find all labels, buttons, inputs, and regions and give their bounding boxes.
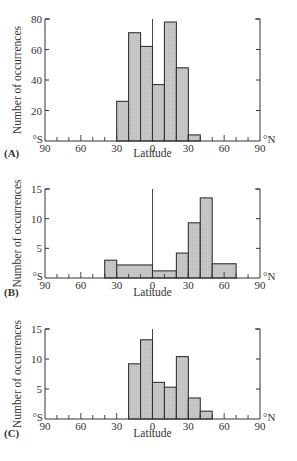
x-tick-label: 30 [183,420,195,432]
x-tick-label: 60 [75,420,87,432]
x-tick-label: 60 [75,279,87,291]
x-tick-label: 90 [40,279,52,291]
y-tick-label: 5 [37,242,43,254]
x-axis-title: Latitude [133,286,171,298]
histogram-bars [129,340,213,419]
x-tick-label: 30 [111,420,123,432]
histogram-bar [164,22,176,141]
histogram-bar [117,101,129,141]
histogram-bar [153,85,165,141]
y-tick-label: 15 [31,323,43,335]
histogram-bar [141,340,153,419]
histogram-bar [200,198,212,278]
histogram-bar [129,364,141,419]
x-tick-label: 30 [111,279,123,291]
histogram-bar [164,387,176,419]
y-tick-label: 10 [31,353,43,365]
x-axis-title: Latitude [133,427,171,439]
histogram-bar [153,382,165,419]
histogram-bar [176,68,188,141]
y-axis-title: Number of occurrences [11,179,23,287]
histogram-bar [200,411,212,419]
x-tick-label: 60 [75,142,87,154]
histogram-bars [105,198,236,278]
histogram-bar [117,265,153,278]
x-tick-label: 90 [255,420,267,432]
y-tick-label: 40 [31,74,43,86]
x-tick-label: 30 [183,279,195,291]
histogram-bars [117,22,201,141]
histogram-bar [188,135,200,141]
histogram-bar [141,46,153,141]
histogram-bar [176,253,188,278]
panel-label: (A) [4,147,20,160]
histogram-bar [188,223,200,278]
histogram-bar [176,357,188,419]
x-tick-label: 90 [40,420,52,432]
x-tick-label: 30 [111,142,123,154]
histogram-panel-c: 51015°S°N9060300306090Latitude(C)Number … [4,320,275,440]
x-tick-label: 60 [219,279,231,291]
x-tick-label: 90 [255,142,267,154]
x-tick-label: 90 [255,279,267,291]
x-tick-label: 30 [183,142,195,154]
histogram-figure: 20406080°S°N9060300306090Latitude(A)Numb… [0,0,297,461]
y-tick-label: 20 [31,105,43,117]
x-axis-title: Latitude [133,147,171,159]
y-tick-label: 5 [37,383,43,395]
x-tick-label: 60 [219,142,231,154]
histogram-bar [188,398,200,419]
x-tick-label: 90 [40,142,52,154]
y-tick-label: 10 [31,213,43,225]
histogram-bar [105,260,117,278]
y-axis-title: Number of occurrences [11,26,23,134]
y-tick-label: 60 [31,44,43,56]
x-tick-label: 60 [219,420,231,432]
y-tick-label: 80 [31,13,43,25]
histogram-panel-b: 51015°S°N9060300306090Latitude(B)Number … [4,179,275,299]
y-axis-title: Number of occurrences [11,320,23,428]
histogram-bar [129,33,141,141]
y-tick-label: 15 [31,183,43,195]
histogram-panel-a: 20406080°S°N9060300306090Latitude(A)Numb… [4,13,275,160]
